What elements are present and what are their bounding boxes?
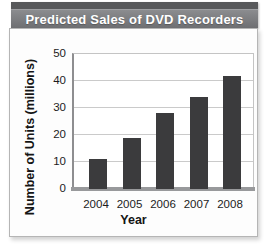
chart-window: Predicted Sales of DVD Recorders Number … [0, 0, 267, 247]
x-tick-label: 2005 [113, 197, 147, 211]
chart-panel: Number of Units (millions) 01020304050 2… [9, 28, 258, 237]
chart-title-banner: Predicted Sales of DVD Recorders [11, 2, 258, 28]
bar-2007 [190, 97, 208, 189]
y-tick-label: 0 [46, 181, 66, 195]
y-tick-label: 20 [46, 127, 66, 141]
banner-top-strip [11, 2, 258, 9]
x-tick-label: 2008 [213, 197, 247, 211]
x-axis-label: Year [10, 213, 257, 227]
x-tick-label: 2007 [180, 197, 214, 211]
bar-2008 [223, 76, 241, 189]
y-tick-label: 50 [46, 46, 66, 60]
chart-title: Predicted Sales of DVD Recorders [25, 12, 243, 27]
y-tick-label: 40 [46, 73, 66, 87]
y-axis-label: Number of Units (millions) [23, 37, 39, 237]
bar-2004 [89, 159, 107, 189]
bar-2006 [156, 113, 174, 189]
plot-area [72, 53, 254, 189]
bar-2005 [123, 138, 141, 189]
y-tick-label: 30 [46, 100, 66, 114]
x-tick-label: 2006 [146, 197, 180, 211]
x-tick-label: 2004 [79, 197, 113, 211]
banner-body: Predicted Sales of DVD Recorders [11, 9, 258, 28]
y-tick-label: 10 [46, 154, 66, 168]
